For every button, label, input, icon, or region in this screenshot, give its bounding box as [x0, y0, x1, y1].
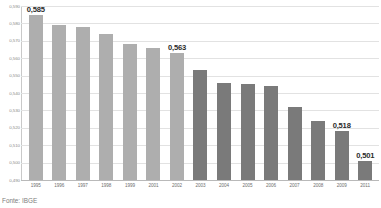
y-axis-tick-label: 0,540: [1, 91, 20, 96]
bar-slot: [306, 6, 330, 180]
bar[interactable]: 0,563: [170, 53, 184, 180]
x-axis-tick-label: 2008: [306, 182, 330, 192]
y-axis-tick-label: 0,590: [1, 4, 20, 9]
bar-value-label: 0,585: [27, 5, 45, 14]
bar[interactable]: [241, 84, 255, 180]
bar-value-label: 0,563: [168, 43, 186, 52]
bar-slot: 0,501: [353, 6, 377, 180]
bar-slot: [71, 6, 95, 180]
bar[interactable]: [288, 107, 302, 180]
bar-slot: [48, 6, 72, 180]
bar-slot: [118, 6, 142, 180]
bar[interactable]: [264, 86, 278, 180]
x-axis-tick-label: 2004: [212, 182, 236, 192]
bar[interactable]: 0,518: [335, 131, 349, 180]
bar-slot: [212, 6, 236, 180]
y-axis-tick-label: 0,490: [1, 178, 20, 183]
bar[interactable]: [99, 34, 113, 180]
y-axis-tick-label: 0,500: [1, 160, 20, 165]
bar-series: 0,5850,5630,5180,501: [21, 6, 379, 180]
bar[interactable]: [146, 48, 160, 180]
bar-slot: 0,585: [24, 6, 48, 180]
x-axis-tick-label: 2003: [189, 182, 213, 192]
bar[interactable]: [123, 44, 137, 180]
x-axis-tick-labels: 1995199619971998199920012002200320042005…: [21, 182, 379, 192]
x-axis-tick-label: 1998: [95, 182, 119, 192]
y-axis-tick-label: 0,560: [1, 56, 20, 61]
plot-area: 0,5850,5630,5180,501: [21, 6, 379, 180]
x-axis-tick-label: 2006: [259, 182, 283, 192]
x-axis-tick-label: 2002: [165, 182, 189, 192]
x-axis-tick-label: 2001: [142, 182, 166, 192]
y-axis-tick-label: 0,550: [1, 73, 20, 78]
x-axis-tick-label: 1995: [24, 182, 48, 192]
x-axis-tick-label: 1996: [48, 182, 72, 192]
y-axis-tick-labels: 0,5900,5800,5700,5600,5500,5400,5300,520…: [0, 6, 20, 180]
x-axis-tick-label: 2011: [353, 182, 377, 192]
bar-chart: 0,5900,5800,5700,5600,5500,5400,5300,520…: [0, 0, 381, 208]
bar[interactable]: [76, 27, 90, 180]
bar-slot: 0,518: [330, 6, 354, 180]
x-axis-tick-label: 2007: [283, 182, 307, 192]
y-axis-tick-label: 0,580: [1, 21, 20, 26]
bar-slot: [259, 6, 283, 180]
gridline: [21, 180, 379, 181]
x-axis-tick-label: 2005: [236, 182, 260, 192]
bar[interactable]: [311, 121, 325, 180]
source-note: Fonte: IBGE: [2, 197, 37, 205]
x-axis-tick-label: 2009: [330, 182, 354, 192]
bar[interactable]: 0,585: [29, 15, 43, 180]
bar[interactable]: [52, 25, 66, 180]
bar-value-label: 0,518: [333, 121, 351, 130]
y-axis-tick-label: 0,530: [1, 108, 20, 113]
bar[interactable]: [193, 70, 207, 180]
y-axis-tick-label: 0,520: [1, 125, 20, 130]
bar-slot: [189, 6, 213, 180]
y-axis-tick-label: 0,570: [1, 38, 20, 43]
y-axis-tick-label: 0,510: [1, 143, 20, 148]
x-axis-tick-label: 1999: [118, 182, 142, 192]
bar-slot: [283, 6, 307, 180]
bar[interactable]: [217, 83, 231, 180]
bar-value-label: 0,501: [356, 151, 374, 160]
bar-slot: [95, 6, 119, 180]
bar[interactable]: 0,501: [358, 161, 372, 180]
bar-slot: [142, 6, 166, 180]
x-axis-tick-label: 1997: [71, 182, 95, 192]
bar-slot: 0,563: [165, 6, 189, 180]
bar-slot: [236, 6, 260, 180]
